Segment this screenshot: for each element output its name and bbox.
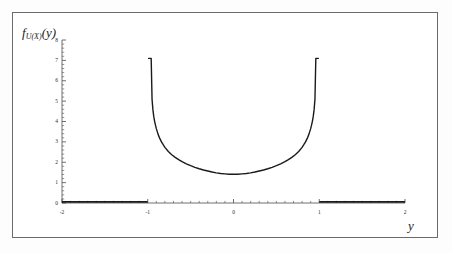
density-curve-body (149, 58, 319, 174)
y-axis-tick-label: 6 (48, 77, 58, 83)
figure-root: fU(X)(y) y -2-1012012345678 (0, 0, 452, 253)
x-axis-tick-label: 1 (309, 209, 329, 215)
y-axis-tick-label: 4 (48, 118, 58, 124)
y-axis-tick-label: 5 (48, 98, 58, 104)
plot-area (0, 0, 452, 253)
y-axis-tick-label: 3 (48, 138, 58, 144)
y-axis-tick-label: 1 (48, 179, 58, 185)
y-axis-tick-label: 2 (48, 159, 58, 165)
x-axis-tick-label: 2 (395, 209, 415, 215)
y-axis-tick-label: 0 (48, 200, 58, 206)
y-axis-tick-label: 7 (48, 57, 58, 63)
x-axis-tick-label: -2 (52, 209, 72, 215)
x-axis-tick-label: 0 (224, 209, 244, 215)
y-axis-tick-label: 8 (48, 37, 58, 43)
x-axis-tick-label: -1 (138, 209, 158, 215)
